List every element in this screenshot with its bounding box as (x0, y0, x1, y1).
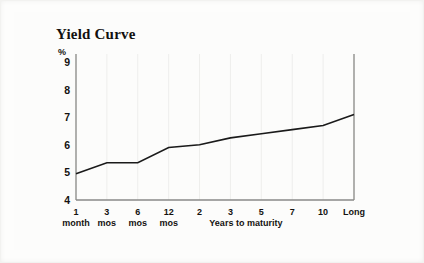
y-tick-label: 6 (52, 140, 70, 151)
y-tick-label: 9 (52, 57, 70, 68)
x-tick-label-primary: 1 (62, 207, 90, 218)
x-tick-label-secondary: month (62, 218, 90, 229)
x-tick-label-primary: 5 (259, 207, 264, 218)
y-tick-label: 8 (52, 85, 70, 96)
x-tick-label: 10 (318, 207, 328, 218)
x-tick-label: 7 (290, 207, 295, 218)
x-tick-label-primary: 12 (159, 207, 178, 218)
yield-curve-figure: Yield Curve % 987654 1month3mos6mos12mos… (14, 12, 410, 250)
x-tick-label: 1month (62, 207, 90, 230)
x-tick-label: 3mos (98, 207, 117, 230)
x-tick-label: 6mos (129, 207, 148, 230)
x-tick-label: 12mos (159, 207, 178, 230)
y-tick-label: 4 (52, 195, 70, 206)
x-tick-label: 5 (259, 207, 264, 218)
yield-curve-line (76, 114, 354, 173)
y-tick-label: 7 (52, 112, 70, 123)
x-tick-label-primary: 7 (290, 207, 295, 218)
x-tick-label-secondary: mos (98, 218, 117, 229)
x-axis-title: Years to maturity (209, 218, 282, 228)
figure-page: Yield Curve % 987654 1month3mos6mos12mos… (0, 0, 424, 263)
x-tick-label-primary: 3 (98, 207, 117, 218)
x-tick-label: 2 (197, 207, 202, 218)
y-tick-label: 5 (52, 167, 70, 178)
x-tick-label: Long (343, 207, 365, 218)
x-tick-label-primary: 6 (129, 207, 148, 218)
x-tick-label-secondary: mos (159, 218, 178, 229)
x-tick-label: 3 (228, 207, 233, 218)
x-tick-label-primary: 3 (228, 207, 233, 218)
x-tick-label-primary: Long (343, 207, 365, 218)
x-tick-label-primary: 10 (318, 207, 328, 218)
x-tick-label-secondary: mos (129, 218, 148, 229)
x-tick-label-primary: 2 (197, 207, 202, 218)
